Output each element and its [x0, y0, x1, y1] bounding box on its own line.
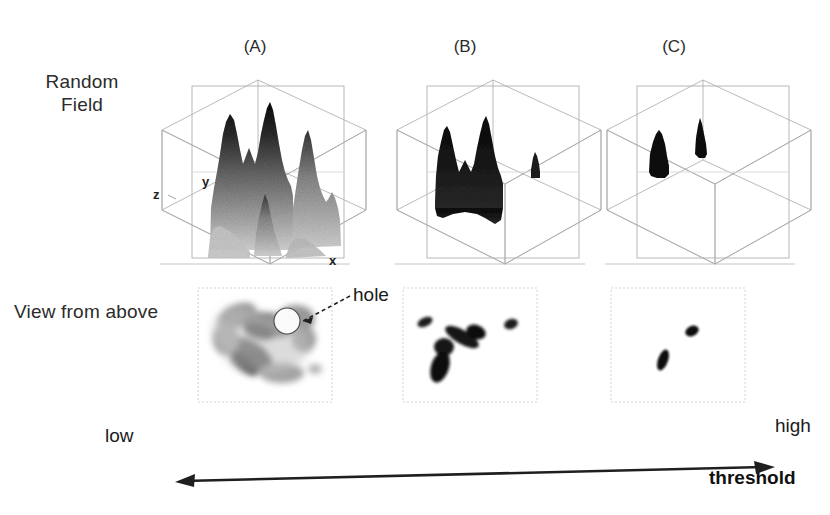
random-field-cube-b: [385, 68, 615, 268]
view-from-above-panel-c: [608, 285, 748, 405]
threshold-high-label: high: [775, 415, 811, 437]
panel-letter-b: (B): [435, 37, 495, 57]
hole-label: hole: [353, 284, 389, 306]
random-field-cube-c: [595, 68, 825, 268]
row-label-random-field: Random Field: [22, 70, 142, 116]
random-field-surface-b: [435, 116, 540, 224]
threshold-double-arrow: [95, 437, 830, 487]
random-field-surface-a: [208, 102, 341, 258]
axis-ticks-a: [140, 165, 200, 275]
axis-label-x: x: [329, 253, 336, 268]
row-label-view-from-above: View from above: [14, 300, 204, 323]
hole-annotation: hole: [295, 282, 425, 337]
threshold-axis: low high threshold: [95, 415, 830, 515]
panel-border-c: [611, 288, 745, 402]
panel-letter-a: (A): [225, 37, 285, 57]
row-label-random-field-line1: Random: [22, 70, 142, 93]
row-label-random-field-line2: Field: [22, 93, 142, 116]
axis-label-y: y: [202, 174, 209, 189]
figure-root: Random Field View from above (A) (B) (C): [0, 0, 830, 515]
random-field-surface-c: [649, 118, 707, 178]
panel-letter-c: (C): [644, 37, 704, 57]
